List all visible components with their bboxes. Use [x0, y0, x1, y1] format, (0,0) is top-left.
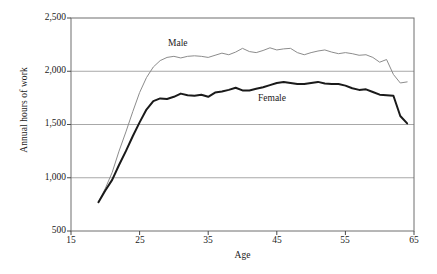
gridlines [71, 71, 414, 178]
series-line-female [98, 82, 407, 202]
plot-area [0, 0, 437, 274]
chart-canvas: Annual hours of work 2,500 2,000 1,500 1… [0, 0, 437, 274]
axis-ticks [67, 18, 414, 235]
